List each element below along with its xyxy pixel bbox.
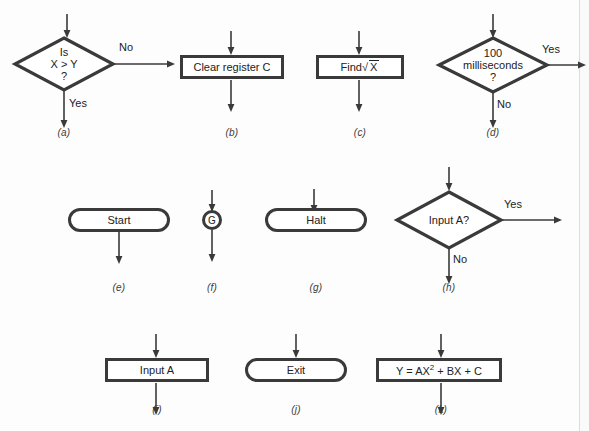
arrow-into-decision-h: [445, 167, 453, 191]
terminal-j-label: Exit: [287, 364, 305, 376]
caption-c: (c): [340, 127, 380, 138]
arrow-out-terminal-e: [115, 232, 123, 264]
connector-f-label: G: [208, 215, 216, 226]
process-k-text-after: + BX + C: [434, 365, 482, 377]
caption-a: (a): [44, 127, 84, 138]
decision-shape-h: Input A?: [395, 190, 503, 250]
caption-d: (d): [473, 127, 513, 138]
process-c-radicand: X: [369, 60, 379, 73]
process-c-label: Find√X: [341, 61, 380, 73]
process-shape-k: Y = AX2 + BX + C: [376, 358, 502, 382]
arrow-into-process-i: [152, 334, 160, 358]
caption-e: (e): [99, 282, 139, 293]
caption-g: (g): [296, 282, 336, 293]
caption-h: (h): [429, 282, 469, 293]
arrow-out-process-c: [355, 80, 363, 112]
decision-shape-a: Is X > Y ?: [13, 36, 115, 92]
arrow-out-connector-f: [208, 230, 216, 262]
process-shape-i: Input A: [105, 358, 209, 382]
caption-i: (i): [137, 404, 177, 415]
arrow-into-decision-a: [63, 14, 71, 38]
arrow-decision-d-right: [546, 61, 586, 69]
arrow-decision-h-right: [500, 216, 562, 224]
caption-k: (k): [421, 404, 461, 415]
terminal-g-label: Halt: [306, 214, 326, 226]
arrow-into-connector-f: [208, 190, 216, 212]
caption-j: (j): [276, 404, 316, 415]
caption-f: (f): [192, 282, 232, 293]
terminal-e-label: Start: [107, 214, 130, 226]
caption-b: (b): [212, 127, 252, 138]
arrow-into-decision-d: [489, 14, 497, 38]
process-k-text-before: Y = AX: [396, 365, 430, 377]
edge-label-a-right: No: [119, 41, 133, 53]
sqrt-icon: √: [362, 61, 368, 73]
arrow-into-process-b: [227, 31, 235, 55]
flowchart-figure: Is X > Y ? No Yes (a) Clear register C (…: [0, 0, 589, 431]
process-c-prefix: Find: [341, 61, 362, 73]
arrow-into-process-c: [355, 31, 363, 55]
terminal-shape-e: Start: [68, 208, 170, 232]
edge-label-h-right: Yes: [504, 198, 522, 210]
process-i-label: Input A: [140, 364, 174, 376]
edge-label-h-down: No: [453, 253, 467, 265]
edge-label-d-right: Yes: [542, 43, 560, 55]
terminal-shape-g: Halt: [265, 208, 367, 232]
edge-label-d-down: No: [497, 98, 511, 110]
process-shape-c: Find√X: [316, 55, 404, 79]
arrow-decision-a-down: [60, 90, 68, 128]
process-shape-b: Clear register C: [180, 55, 284, 79]
process-k-label: Y = AX2 + BX + C: [396, 363, 482, 377]
arrow-out-process-b: [227, 80, 235, 112]
terminal-shape-j: Exit: [245, 358, 347, 382]
connector-shape-f: G: [202, 210, 222, 230]
arrow-into-process-k: [437, 334, 445, 358]
decision-shape-d: 100 milliseconds ?: [437, 36, 549, 94]
arrow-decision-d-down: [489, 92, 497, 128]
arrow-into-terminal-j: [292, 334, 300, 358]
arrow-decision-h-down: [445, 248, 453, 284]
process-b-label: Clear register C: [193, 61, 270, 73]
edge-label-a-down: Yes: [69, 97, 87, 109]
arrow-decision-a-right: [113, 60, 175, 68]
